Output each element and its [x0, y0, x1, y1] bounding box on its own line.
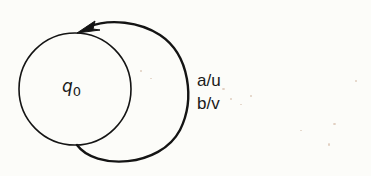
paper-speck [328, 143, 330, 146]
paper-speck [150, 78, 152, 79]
state-q0-label: q0 [62, 76, 81, 99]
transition-label-2: b/v [197, 93, 220, 114]
arrowhead-icon [77, 21, 100, 33]
paper-speck [250, 95, 252, 97]
self-loop-arc [77, 22, 188, 161]
transition-label-1: a/u [197, 70, 221, 91]
state-q0-label-base: q [62, 76, 73, 96]
diagram-canvas: q0 a/u b/v [0, 0, 371, 176]
state-q0-label-sub: 0 [73, 84, 81, 99]
paper-speck [300, 130, 302, 131]
paper-speck [355, 80, 357, 82]
paper-speck [140, 70, 142, 72]
paper-speck [240, 104, 242, 105]
paper-speck [333, 123, 336, 125]
paper-speck [230, 98, 232, 100]
diagram-svg [0, 0, 371, 176]
paper-speck [222, 88, 225, 90]
